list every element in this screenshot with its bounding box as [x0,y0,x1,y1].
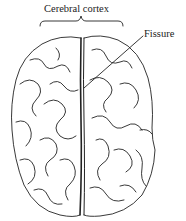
fissure-pointer [84,36,143,88]
brain-diagram [0,0,186,221]
right-hemisphere-outline [84,36,155,216]
cortex-brace [40,16,123,26]
longitudinal-fissure [80,38,81,215]
left-hemisphere-outline [12,37,82,217]
